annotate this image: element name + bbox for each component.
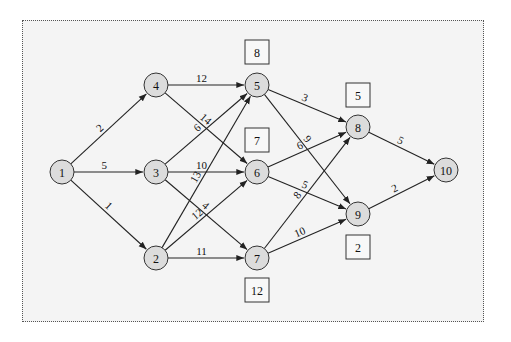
node-7: 7 <box>245 246 269 270</box>
node-5: 5 <box>245 73 269 97</box>
edge-1-to-4 <box>71 94 147 164</box>
node-label: 9 <box>355 208 361 222</box>
node-4: 4 <box>144 73 168 97</box>
node-8: 8 <box>346 115 370 139</box>
node-label: 10 <box>440 164 452 178</box>
box-value: 5 <box>355 89 361 103</box>
value-box-node-6: 7 <box>245 128 269 152</box>
node-label: 7 <box>254 252 260 266</box>
node-2: 2 <box>144 246 168 270</box>
value-box-node-7: 12 <box>245 278 269 302</box>
edge-7-to-8 <box>264 137 350 248</box>
node-label: 1 <box>59 166 65 180</box>
value-box-node-8: 5 <box>346 83 370 107</box>
network-diagram: 25112146104131211396581052 871252 123456… <box>0 0 511 342</box>
value-box-node-9: 2 <box>346 235 370 259</box>
box-value: 7 <box>254 134 260 148</box>
edge-weight-label: 9 <box>302 133 315 145</box>
box-value: 2 <box>355 241 361 255</box>
edge-weight-label: 6 <box>191 121 203 134</box>
edge-weight-label: 3 <box>300 91 310 104</box>
edge-weight-label: 12 <box>196 72 207 84</box>
edge-weight-label: 11 <box>196 245 207 257</box>
edge-7-to-9 <box>268 219 346 253</box>
node-label: 5 <box>254 79 260 93</box>
node-label: 6 <box>254 166 260 180</box>
node-6: 6 <box>245 160 269 184</box>
value-box-node-5: 8 <box>245 40 269 64</box>
node-label: 8 <box>355 121 361 135</box>
edge-9-to-10 <box>369 176 435 209</box>
node-label: 4 <box>153 79 159 93</box>
edge-weight-label: 5 <box>102 159 108 171</box>
node-9: 9 <box>346 202 370 226</box>
edge-weight-label: 5 <box>396 133 407 146</box>
node-1: 1 <box>50 160 74 184</box>
node-3: 3 <box>144 160 168 184</box>
edge-weight-label: 1 <box>103 199 115 212</box>
node-label: 3 <box>153 166 159 180</box>
node-label: 2 <box>153 252 159 266</box>
edge-weight-label: 2 <box>389 181 399 194</box>
node-10: 10 <box>434 158 458 182</box>
edge-weight-label: 2 <box>93 121 105 134</box>
edge-weight-label: 5 <box>300 178 310 191</box>
box-value: 8 <box>254 46 260 60</box>
edge-weight-label: 10 <box>196 159 208 171</box>
edge-weight-label: 14 <box>198 111 215 128</box>
edge-weight-label: 4 <box>200 199 212 212</box>
box-value: 12 <box>251 284 263 298</box>
edge-1-to-2 <box>71 180 147 249</box>
